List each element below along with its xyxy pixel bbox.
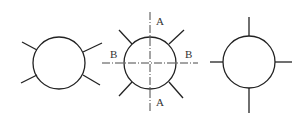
label-b-right: B [185,48,192,60]
label-b-left: B [110,48,117,60]
circle-right [223,36,275,88]
lead-upper-left [119,30,132,44]
diagram-canvas: A A B B [0,0,306,120]
lead-lower-left [21,75,37,83]
circle-left [33,37,85,89]
lead-lower-left [119,82,132,96]
figure-middle: A A B B [102,12,198,112]
lead-lower-right [169,82,183,98]
lead-upper-left [22,42,37,50]
lead-upper-right [83,43,102,52]
lead-lower-right [83,75,100,85]
figure-right [210,17,292,113]
figure-left [21,37,102,89]
label-a-top: A [156,15,164,27]
lead-upper-right [169,30,184,44]
label-a-bottom: A [156,96,164,108]
